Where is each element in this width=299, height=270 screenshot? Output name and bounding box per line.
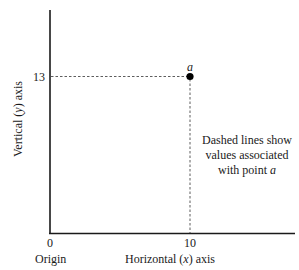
origin-label: Origin [35, 252, 66, 266]
y-axis-label: Vertical (y) axis [11, 69, 25, 169]
note-line-1: Dashed lines show [198, 133, 296, 148]
annotation-note: Dashed lines show values associated with… [198, 133, 296, 178]
note-point-var: a [270, 163, 276, 177]
x-tick-10: 10 [184, 236, 196, 250]
note-line-3-text: with point [218, 163, 270, 177]
point-a-label: a [187, 60, 193, 74]
x-axis-label: Horizontal (x) axis [125, 252, 215, 266]
y-tick-13: 13 [33, 70, 45, 84]
note-line-3: with point a [198, 163, 296, 178]
x-tick-0: 0 [47, 236, 53, 250]
note-line-2: values associated [198, 148, 296, 163]
